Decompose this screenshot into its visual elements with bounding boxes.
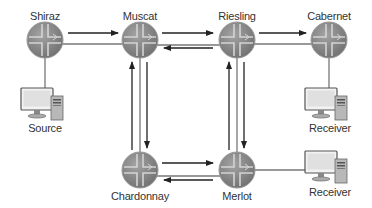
receiver-computer-icon-2 <box>305 151 347 183</box>
network-diagram <box>0 0 372 208</box>
host-label-receiver: Receiver <box>309 122 351 134</box>
router-chardonnay-icon <box>122 152 158 188</box>
router-label-riesling: Riesling <box>218 10 256 22</box>
router-muscat-icon <box>122 22 158 58</box>
flow-arrows <box>68 33 306 180</box>
source-computer-icon <box>21 88 63 120</box>
links <box>45 40 329 176</box>
router-cabernet-icon <box>311 22 347 58</box>
router-label-muscat: Muscat <box>123 10 157 22</box>
router-shiraz-icon <box>27 22 63 58</box>
router-label-shiraz: Shiraz <box>30 10 60 22</box>
host-label-source: Source <box>28 122 62 134</box>
router-label-cabernet: Cabernet <box>307 10 351 22</box>
router-label-merlot: Merlot <box>222 190 251 202</box>
host-label-receiver-2: Receiver <box>309 186 351 198</box>
router-riesling-icon <box>219 22 255 58</box>
router-label-chardonnay: Chardonnay <box>111 190 169 202</box>
router-merlot-icon <box>219 152 255 188</box>
receiver-computer-icon <box>305 88 347 120</box>
